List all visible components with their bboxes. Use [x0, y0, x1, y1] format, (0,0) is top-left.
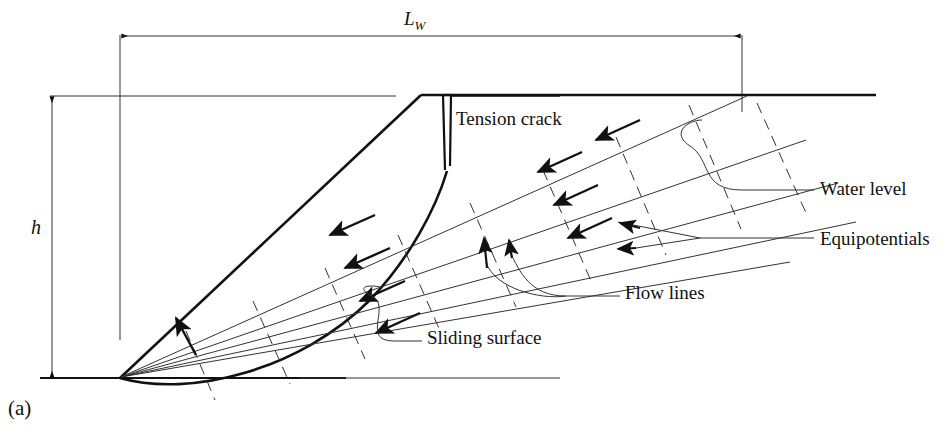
- equipotential-6: [543, 170, 591, 281]
- flow-line-5: [121, 262, 790, 377]
- figure-root: LW h Tension crack Water level Equipoten…: [0, 0, 949, 436]
- leader-equipotentials-branch-b: [636, 238, 700, 248]
- dimension-label-lw-main: L: [404, 8, 415, 29]
- leader-water-level: [681, 120, 814, 190]
- slope-face: [120, 95, 421, 378]
- leader-equipotentials-branch-a: [618, 222, 700, 238]
- seepage-arrow-3: [360, 281, 405, 301]
- equipotential-9: [757, 103, 806, 213]
- seepage-arrow-5: [596, 120, 640, 140]
- label-tension-crack: Tension crack: [456, 108, 562, 130]
- leader-equipotentials-arrow-b: [618, 248, 636, 249]
- seepage-arrow-8: [568, 218, 612, 238]
- label-flow-lines: Flow lines: [625, 282, 705, 304]
- seepage-arrow-toe: [176, 318, 196, 355]
- slope-flow-net-svg: [0, 0, 949, 436]
- label-equipotentials: Equipotentials: [820, 228, 930, 250]
- equipotential-3: [325, 268, 365, 359]
- leader-flow-lines-arrow-a: [509, 240, 512, 258]
- tension-crack-left-wall: [443, 95, 445, 170]
- tension-crack: [443, 95, 451, 170]
- seepage-arrow-7: [554, 185, 598, 205]
- equipotential-7: [616, 137, 666, 255]
- label-water-level: Water level: [820, 178, 907, 200]
- seepage-arrow-2: [345, 248, 390, 268]
- leader-flow-lines: [484, 238, 620, 297]
- seepage-arrow-1: [330, 215, 375, 235]
- tension-crack-right-wall: [450, 95, 451, 166]
- seepage-arrow-4: [376, 313, 420, 333]
- dimension-label-lw: LW: [404, 8, 425, 34]
- equipotentials-group: [186, 103, 806, 400]
- seepage-arrows-group: [176, 120, 640, 355]
- leader-flow-lines-arrow-b: [484, 238, 487, 268]
- equipotential-8: [689, 105, 741, 229]
- seepage-arrow-6: [538, 152, 582, 172]
- figure-caption: (a): [8, 396, 31, 421]
- leader-water-level-path: [681, 120, 814, 190]
- label-sliding-surface: Sliding surface: [427, 327, 542, 349]
- equipotential-5: [470, 203, 516, 307]
- dimension-label-h: h: [31, 216, 41, 239]
- sliding-surface-curve: [120, 171, 447, 384]
- leader-equipotentials: [618, 222, 814, 249]
- dimension-label-lw-sub: W: [415, 18, 426, 33]
